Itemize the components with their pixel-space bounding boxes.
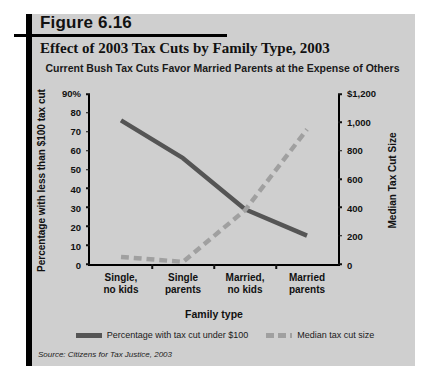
y-axis-right-tickmark bbox=[338, 178, 342, 180]
y-axis-left-tick-label: 40 bbox=[70, 185, 81, 195]
y-axis-left-title: Percentage with less than $100 tax cut bbox=[34, 94, 48, 266]
figure-title: Effect of 2003 Tax Cuts by Family Type, … bbox=[40, 40, 330, 57]
y-axis-left-tick-label: 60 bbox=[70, 147, 81, 157]
y-axis-right-tickmark bbox=[338, 93, 342, 95]
y-axis-left-tick-label: 80 bbox=[70, 108, 81, 118]
y-axis-right-tick-label: 600 bbox=[347, 175, 363, 185]
legend-label: Percentage with tax cut under $100 bbox=[107, 330, 249, 340]
x-axis-tickmark bbox=[213, 264, 215, 269]
legend-label: Median tax cut size bbox=[297, 330, 374, 340]
y-axis-right-tick-label: 400 bbox=[347, 204, 363, 214]
y-axis-left-tick-label: 30 bbox=[70, 204, 81, 214]
figure-source: Source: Citizens for Tax Justice, 2003 bbox=[38, 350, 172, 359]
x-axis-category-label: Single,no kids bbox=[103, 272, 138, 295]
y-axis-left-tickmark bbox=[86, 225, 90, 227]
y-axis-left-tickmark bbox=[86, 188, 90, 190]
y-axis-right-tickmark bbox=[338, 150, 342, 152]
y-axis-left-tick-label: 10 bbox=[70, 242, 81, 252]
legend-item[interactable]: Median tax cut size bbox=[266, 330, 374, 340]
legend-item[interactable]: Percentage with tax cut under $100 bbox=[76, 330, 249, 340]
x-axis-tickmark bbox=[275, 264, 277, 269]
chart-legend: Percentage with tax cut under $100Median… bbox=[60, 330, 390, 340]
x-axis-category-label: Marriedparents bbox=[289, 272, 325, 295]
y-axis-left-tick-label: 90% bbox=[62, 89, 81, 99]
y-axis-left-tickmark bbox=[86, 169, 90, 171]
x-axis-tickmark bbox=[151, 264, 153, 269]
y-axis-right-title-text: Median Tax Cut Size bbox=[388, 132, 399, 228]
y-axis-left-tickmark bbox=[86, 207, 90, 209]
y-axis-right-tick-label: 1,000 bbox=[347, 118, 371, 128]
chart-subtitle: Current Bush Tax Cuts Favor Married Pare… bbox=[0, 62, 445, 74]
x-axis-category-label: Married,no kids bbox=[226, 272, 265, 295]
chart-series-svg bbox=[90, 94, 338, 264]
y-axis-left-tick-label: 0 bbox=[76, 261, 81, 271]
figure-number-underline bbox=[14, 34, 227, 37]
legend-swatch-icon bbox=[266, 333, 292, 338]
y-axis-left-tickmark bbox=[86, 93, 90, 95]
y-axis-right-tick-label: 200 bbox=[347, 233, 363, 243]
figure-number: Figure 6.16 bbox=[40, 13, 132, 33]
y-axis-right-tickmark bbox=[338, 207, 342, 209]
y-axis-left-tick-label: 50 bbox=[70, 166, 81, 176]
series-line-percentage-under-100 bbox=[121, 120, 307, 235]
figure-container: Figure 6.16 Effect of 2003 Tax Cuts by F… bbox=[0, 0, 445, 384]
y-axis-left-tickmark bbox=[86, 150, 90, 152]
y-axis-right-title: Median Tax Cut Size bbox=[386, 94, 400, 266]
y-axis-right-tick-label: $1,200 bbox=[347, 89, 376, 99]
plot-wrapper: Single,no kidsSingleparentsMarried,no ki… bbox=[88, 94, 340, 266]
y-axis-right-tick-label: 800 bbox=[347, 147, 363, 157]
series-line-median-tax-cut-size bbox=[121, 129, 307, 261]
legend-swatch-icon bbox=[76, 333, 102, 338]
y-axis-right-tickmark bbox=[338, 235, 342, 237]
y-axis-left-tickmark bbox=[86, 244, 90, 246]
y-axis-left-title-text: Percentage with less than $100 tax cut bbox=[36, 89, 47, 272]
plot-area: Single,no kidsSingleparentsMarried,no ki… bbox=[88, 94, 340, 266]
x-axis-category-label: Singleparents bbox=[165, 272, 201, 295]
y-axis-left-tick-label: 70 bbox=[70, 127, 81, 137]
x-axis-title: Family type bbox=[88, 308, 340, 320]
y-axis-left-tickmark bbox=[86, 112, 90, 114]
y-axis-left-tickmark bbox=[86, 131, 90, 133]
y-axis-right-tickmark bbox=[338, 263, 342, 265]
y-axis-right-tickmark bbox=[338, 122, 342, 124]
y-axis-left-tick-label: 20 bbox=[70, 223, 81, 233]
y-axis-left-tickmark bbox=[86, 263, 90, 265]
y-axis-right-tick-label: 0 bbox=[347, 261, 352, 271]
